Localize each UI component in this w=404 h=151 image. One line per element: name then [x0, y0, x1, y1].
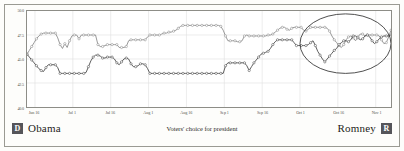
x-tick-label: Nov 1	[360, 110, 394, 116]
candidate-name-romney: Romney	[338, 122, 376, 134]
y-tick-label: 42.5	[2, 81, 24, 86]
y-tick-label: 47.5	[2, 32, 24, 37]
x-axis: Jun 16Jul 1Jul 16Aug 1Aug 16Sep 1Sep 16O…	[26, 110, 392, 120]
y-tick-label: 50.0	[2, 8, 24, 13]
y-tick-label: 45.0	[2, 57, 24, 62]
y-axis: 40.042.545.047.550.0	[0, 10, 24, 108]
x-tick-label: Aug 16	[169, 110, 203, 116]
plot-area	[26, 10, 392, 108]
x-tick-label: Jul 16	[93, 110, 127, 116]
legend-item-romney: Romney R	[338, 122, 392, 134]
x-tick-label: Jul 1	[55, 110, 89, 116]
plot-svg	[27, 11, 391, 107]
x-tick-label: Jun 16	[17, 110, 51, 116]
x-tick-label: Aug 1	[131, 110, 165, 116]
x-tick-label: Oct 1	[284, 110, 318, 116]
figure-footer: D Obama Voters' choice for president Rom…	[4, 120, 400, 146]
x-tick-label: Sep 1	[207, 110, 241, 116]
x-tick-label: Oct 16	[322, 110, 356, 116]
x-tick-label: Sep 16	[245, 110, 279, 116]
republican-badge-icon: R	[381, 123, 392, 134]
polling-chart-figure: 40.042.545.047.550.0 Jun 16Jul 1Jul 16Au…	[0, 0, 404, 151]
